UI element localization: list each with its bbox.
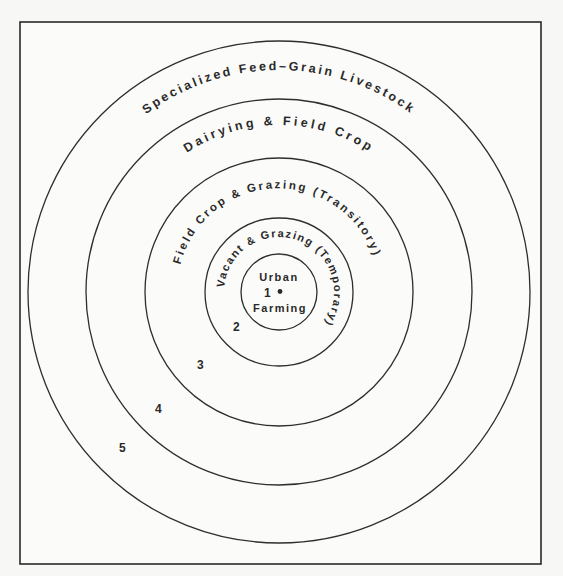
zone-number-3: 3 — [197, 358, 204, 372]
center-point-icon — [278, 289, 283, 294]
center-label-top: Urban — [259, 271, 298, 283]
zone-number-4: 4 — [155, 402, 162, 416]
zone-number-2: 2 — [233, 320, 240, 334]
concentric-zones-diagram: Specialized Feed–Grain Livestock Dairyin… — [0, 0, 563, 576]
zone-number-5: 5 — [119, 441, 126, 455]
zone-number-1: 1 — [264, 286, 271, 300]
center-label-bottom: Farming — [253, 302, 307, 314]
